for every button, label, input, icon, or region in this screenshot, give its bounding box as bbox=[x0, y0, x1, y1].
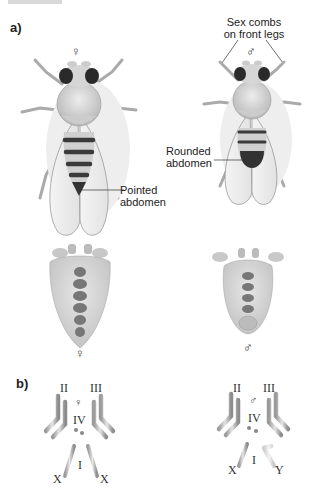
male-chr-III-label: III bbox=[263, 381, 275, 396]
male-y-label: Y bbox=[275, 463, 284, 478]
callout-line-1: Rounded bbox=[166, 145, 212, 157]
panel-b-label: b) bbox=[16, 376, 28, 391]
male-abdomen-ventral bbox=[212, 248, 284, 334]
flies-illustration bbox=[0, 0, 314, 502]
female-abdomen-ventral bbox=[50, 244, 110, 348]
male-ventral-symbol: ♂ bbox=[243, 340, 253, 355]
pointed-abdomen-callout: Pointed abdomen bbox=[120, 184, 166, 208]
callout-line-2: abdomen bbox=[120, 196, 166, 208]
female-chr-III-label: III bbox=[90, 381, 102, 396]
male-chr-I-label: I bbox=[252, 453, 256, 468]
female-x1-label: X bbox=[53, 472, 62, 487]
rounded-abdomen-callout: Rounded abdomen bbox=[166, 145, 212, 169]
male-karyotype-symbol: ♂ bbox=[249, 394, 257, 406]
callout-line-2: abdomen bbox=[166, 157, 212, 169]
male-chr-II-label: II bbox=[233, 381, 241, 396]
female-chr-I-label: I bbox=[78, 458, 82, 473]
male-x-label: X bbox=[228, 463, 237, 478]
female-karyotype-symbol: ♀ bbox=[74, 396, 82, 408]
callout-line-1: Pointed bbox=[120, 184, 166, 196]
male-chr-IV-label: IV bbox=[248, 411, 261, 426]
female-x2-label: X bbox=[100, 472, 109, 487]
female-chr-II-label: II bbox=[60, 381, 68, 396]
male-fly-dorsal bbox=[204, 61, 300, 205]
female-chr-IV-label: IV bbox=[73, 413, 86, 428]
female-fly-dorsal bbox=[22, 60, 136, 235]
female-ventral-symbol: ♀ bbox=[75, 346, 85, 361]
